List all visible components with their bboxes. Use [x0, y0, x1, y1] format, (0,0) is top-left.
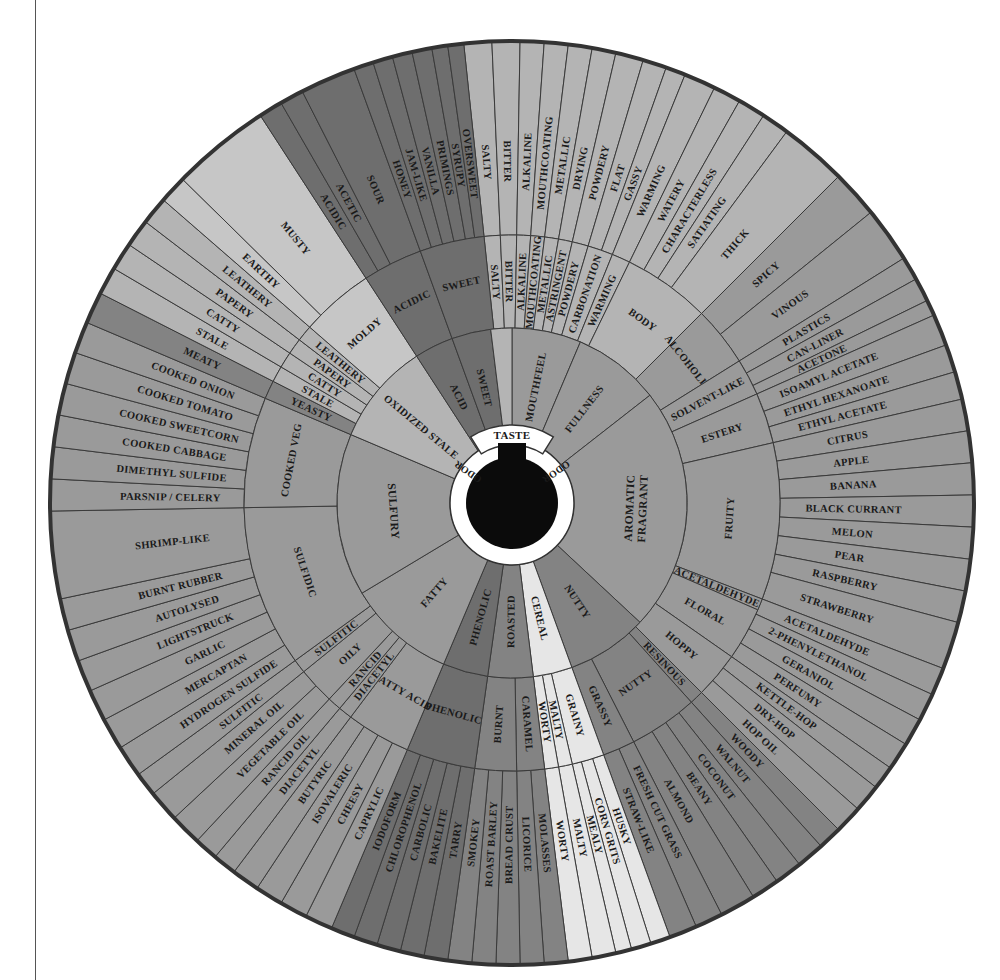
hub-neck — [498, 443, 526, 463]
inner-label-aromatic-fragrant: AROMATICFRAGRANT — [622, 474, 650, 543]
hub-label-taste: TASTE — [494, 429, 531, 441]
inner-label-roasted: ROASTED — [505, 595, 516, 648]
middle-label-burnt: BURNT — [492, 705, 505, 744]
outer-label-parsnip-celery: PARSNIP / CELERY — [120, 491, 221, 504]
outer-label-black-currant: BLACK CURRANT — [805, 503, 902, 516]
beer-flavor-wheel: SALTYBITTERALKALINEMOUTHCOATINGMETALLICD… — [0, 0, 1000, 980]
outer-label-bitter: BITTER — [502, 140, 514, 182]
outer-label-bread-crust: BREAD CRUST — [503, 806, 515, 884]
hub-disc — [466, 457, 558, 549]
middle-label-bitter: BITTER — [503, 261, 515, 303]
